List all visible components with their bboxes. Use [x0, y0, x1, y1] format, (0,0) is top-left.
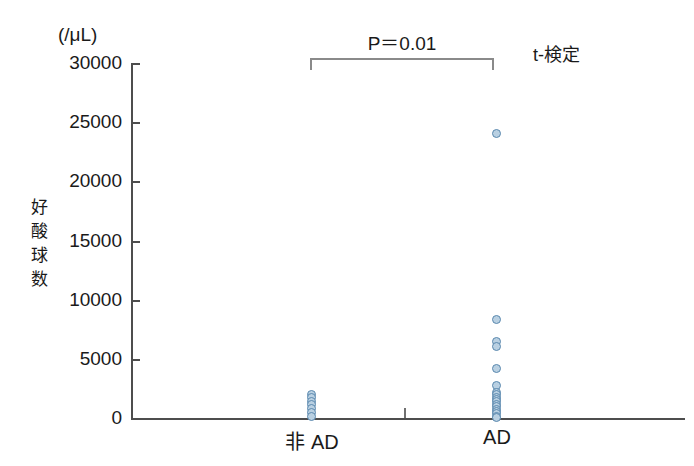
data-point: [492, 129, 501, 138]
data-point: [492, 364, 501, 373]
data-point: [492, 315, 501, 324]
chart-figure: (/μL) 好酸球数 05000100001500020000250003000…: [0, 0, 694, 466]
data-point: [492, 342, 501, 351]
data-points-layer: [0, 0, 694, 466]
data-point: [492, 413, 501, 422]
data-point: [307, 412, 316, 421]
